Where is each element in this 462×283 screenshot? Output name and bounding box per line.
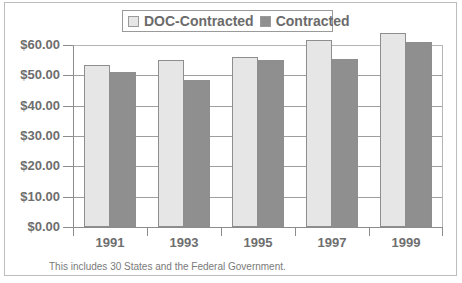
y-tick [63,75,73,76]
y-tick [63,106,73,107]
x-tick-label: 1993 [147,235,221,250]
y-tick [63,227,73,228]
legend-swatch-contracted [260,16,271,27]
y-tick-label: $0.00 [6,219,60,234]
y-tick [63,45,73,46]
bar-contracted-1997 [332,59,358,227]
legend-item-contracted: Contracted [260,13,350,29]
y-tick-label: $40.00 [6,98,60,113]
bar-contracted-1999 [406,42,432,227]
y-tick-label: $60.00 [6,37,60,52]
bar-contracted-1993 [184,80,210,227]
legend-item-doc-contracted: DOC-Contracted [128,13,254,29]
y-tick-label: $50.00 [6,67,60,82]
bar-doc-contracted-1999 [380,33,406,227]
chart-legend: DOC-Contracted Contracted [122,10,333,32]
y-tick-label: $20.00 [6,158,60,173]
bar-contracted-1995 [258,60,284,227]
y-tick [63,136,73,137]
bar-doc-contracted-1993 [158,60,184,227]
x-tick-label: 1995 [221,235,295,250]
bar-doc-contracted-1997 [306,40,332,227]
y-tick-label: $10.00 [6,189,60,204]
y-tick [63,197,73,198]
bar-doc-contracted-1991 [84,65,110,227]
legend-swatch-doc-contracted [128,16,139,27]
x-tick-label: 1991 [73,235,147,250]
bar-doc-contracted-1995 [232,57,258,227]
y-tick-label: $30.00 [6,128,60,143]
x-axis-line [73,227,443,228]
legend-label-doc-contracted: DOC-Contracted [144,13,254,29]
legend-label-contracted: Contracted [276,13,350,29]
bar-contracted-1991 [110,72,136,227]
x-tick-label: 1999 [369,235,443,250]
x-tick-label: 1997 [295,235,369,250]
footnote: This includes 30 States and the Federal … [49,261,286,272]
y-tick [63,166,73,167]
